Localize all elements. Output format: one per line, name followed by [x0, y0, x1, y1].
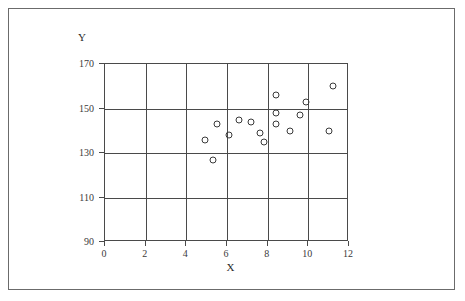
data-point	[303, 98, 310, 105]
x-tick-mark	[307, 241, 308, 246]
y-tick-label: 130	[68, 147, 94, 158]
scatter-plot-screenshot: Y 024681012 90110130150170 X	[0, 0, 465, 301]
gridline-horizontal	[105, 109, 347, 110]
x-tick-label: 2	[142, 248, 147, 259]
y-tick-label: 90	[68, 236, 94, 247]
x-tick-label: 6	[224, 248, 229, 259]
y-axis-label: Y	[72, 31, 92, 43]
gridline-vertical	[227, 64, 228, 240]
data-point	[287, 127, 294, 134]
gridline-vertical	[186, 64, 187, 240]
data-point	[236, 116, 243, 123]
y-tick-mark	[99, 241, 104, 242]
y-tick-mark	[99, 197, 104, 198]
data-point	[248, 118, 255, 125]
data-point	[209, 156, 216, 163]
data-point	[201, 136, 208, 143]
y-tick-mark	[99, 108, 104, 109]
y-tick-mark	[99, 63, 104, 64]
gridline-horizontal	[105, 198, 347, 199]
x-tick-label: 4	[183, 248, 188, 259]
y-tick-label: 150	[68, 102, 94, 113]
gridline-horizontal	[105, 153, 347, 154]
data-point	[272, 121, 279, 128]
data-point	[325, 127, 332, 134]
x-tick-mark	[226, 241, 227, 246]
x-tick-label: 0	[102, 248, 107, 259]
x-tick-mark	[104, 241, 105, 246]
x-tick-mark	[348, 241, 349, 246]
gridline-vertical	[146, 64, 147, 240]
gridline-vertical	[268, 64, 269, 240]
y-tick-label: 170	[68, 58, 94, 69]
plot-area	[104, 63, 348, 241]
data-point	[260, 138, 267, 145]
x-tick-mark	[145, 241, 146, 246]
x-axis-label: X	[0, 261, 465, 273]
x-tick-label: 8	[264, 248, 269, 259]
data-point	[256, 129, 263, 136]
data-point	[213, 121, 220, 128]
x-tick-mark	[267, 241, 268, 246]
x-tick-label: 10	[302, 248, 312, 259]
data-point	[329, 83, 336, 90]
y-tick-label: 110	[68, 191, 94, 202]
gridline-vertical	[308, 64, 309, 240]
x-tick-label: 12	[343, 248, 353, 259]
data-point	[226, 132, 233, 139]
data-point	[272, 109, 279, 116]
data-point	[272, 92, 279, 99]
x-axis-label-text: X	[227, 261, 235, 273]
x-tick-mark	[185, 241, 186, 246]
data-point	[297, 112, 304, 119]
y-tick-mark	[99, 152, 104, 153]
